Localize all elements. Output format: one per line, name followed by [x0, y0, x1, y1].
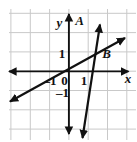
- line-a-label: A: [74, 13, 84, 28]
- x-tick-label-one: 1: [81, 73, 88, 88]
- coordinate-plane-figure: y x A B –1 0 1 1 –1: [0, 0, 137, 142]
- coordinate-plane-svg: y x A B –1 0 1 1 –1: [0, 0, 137, 142]
- y-tick-label-neg-one: –1: [55, 85, 69, 100]
- x-tick-label-neg-one: –1: [43, 73, 57, 88]
- y-axis-label: y: [55, 15, 63, 30]
- y-tick-label-one: 1: [59, 46, 66, 61]
- line-b-label: B: [101, 46, 111, 61]
- x-axis-label: x: [124, 71, 132, 86]
